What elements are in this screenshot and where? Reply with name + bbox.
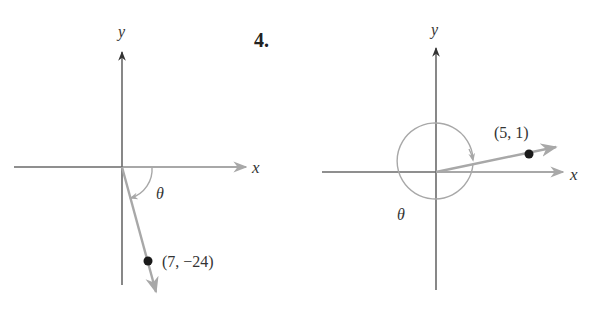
y-axis-label: y: [429, 21, 439, 39]
x-axis-label: x: [251, 158, 260, 177]
x-axis-label: x: [569, 165, 578, 184]
figure-1: y x θ (7, −24): [14, 23, 260, 292]
terminal-ray: [122, 167, 156, 292]
angle-arc: [131, 167, 152, 198]
y-axis-label: y: [116, 23, 126, 41]
point-marker: [144, 257, 153, 266]
point-label: (7, −24): [162, 253, 214, 271]
angle-arc: [397, 123, 473, 199]
point-marker: [525, 150, 534, 159]
diagram-canvas: y x θ (7, −24) 4. y x θ (5, 1): [0, 0, 589, 312]
angle-label: θ: [397, 206, 405, 223]
problem-number: 4.: [254, 29, 269, 51]
point-label: (5, 1): [494, 124, 529, 142]
angle-label: θ: [156, 185, 164, 202]
terminal-ray: [436, 147, 556, 172]
figure-2: 4. y x θ (5, 1): [254, 21, 578, 290]
